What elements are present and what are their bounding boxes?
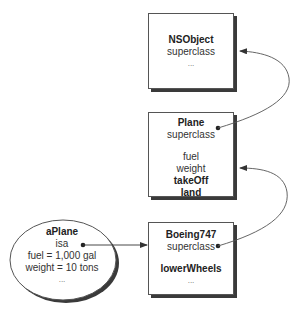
instance-aplane: aPlane isa fuel = 1,000 gal weight = 10 … — [12, 226, 112, 286]
instance-name: aPlane — [12, 226, 112, 238]
fuel-value: fuel = 1,000 gal — [12, 250, 112, 262]
boeing-to-plane-arrow — [218, 168, 287, 246]
plane-to-nsobject-arrow — [218, 51, 289, 128]
ellipsis: ... — [12, 274, 112, 286]
weight-value: weight = 10 tons — [12, 262, 112, 274]
isa-field: isa — [12, 238, 112, 250]
